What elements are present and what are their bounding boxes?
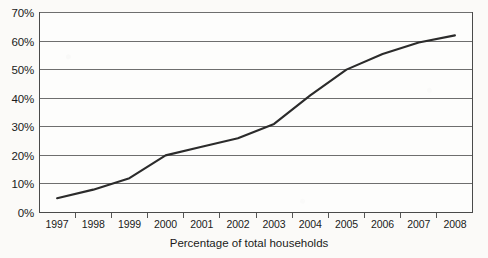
x-tick-label-1997: 1997 xyxy=(46,218,69,230)
y-tick-label-30: 30% xyxy=(12,121,34,133)
chart-canvas: 70% 60% 50% 40% 30% 20% 10% 0% 1997 1998… xyxy=(0,0,488,258)
x-tick-label-2002: 2002 xyxy=(226,218,249,230)
line-chart: 70% 60% 50% 40% 30% 20% 10% 0% 1997 1998… xyxy=(0,0,488,258)
y-tick-label-10: 10% xyxy=(12,178,34,190)
x-tick-label-2006: 2006 xyxy=(371,218,394,230)
x-tick-label-2007: 2007 xyxy=(407,218,430,230)
y-tick-label-40: 40% xyxy=(12,93,34,105)
x-tick-label-2003: 2003 xyxy=(263,218,286,230)
x-tick-label-2001: 2001 xyxy=(190,218,213,230)
y-tick-label-20: 20% xyxy=(12,150,34,162)
x-tick-label-2008: 2008 xyxy=(443,218,466,230)
x-axis-title: Percentage of total households xyxy=(170,237,329,249)
x-tick-label-1999: 1999 xyxy=(118,218,141,230)
y-tick-label-60: 60% xyxy=(12,36,34,48)
plot-area-background xyxy=(39,12,473,213)
x-tick-label-2005: 2005 xyxy=(335,218,358,230)
y-tick-label-0: 0% xyxy=(18,207,34,219)
x-tick-label-1998: 1998 xyxy=(82,218,105,230)
y-tick-label-50: 50% xyxy=(12,64,34,76)
x-tick-marks xyxy=(75,213,437,218)
x-tick-label-2004: 2004 xyxy=(299,218,322,230)
y-tick-labels: 70% 60% 50% 40% 30% 20% 10% 0% xyxy=(12,7,34,219)
x-tick-label-2000: 2000 xyxy=(154,218,177,230)
x-tick-labels: 1997 1998 1999 2000 2001 2002 2003 2004 … xyxy=(46,218,467,230)
y-tick-label-70: 70% xyxy=(12,7,34,19)
